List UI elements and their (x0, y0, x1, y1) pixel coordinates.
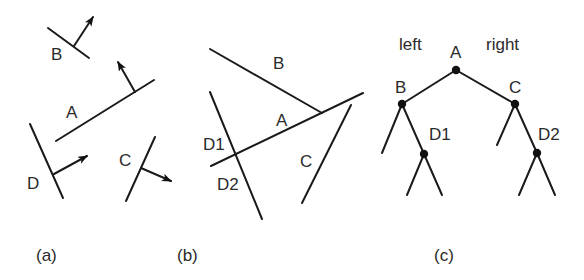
label-c-d2: D2 (538, 125, 560, 144)
edge-d1-leaf-left (407, 154, 424, 195)
label-a-a: A (66, 103, 78, 122)
panel-b: B A D1 D2 C (b) (177, 49, 363, 265)
tree-node-d1 (420, 150, 428, 158)
edge-b-leaf (382, 104, 402, 153)
label-b-d1: D1 (203, 135, 225, 154)
normal-arrow-d-icon (54, 156, 87, 174)
label-c-b: B (395, 78, 406, 97)
label-c-c: C (509, 78, 521, 97)
edge-c-d2 (515, 104, 537, 153)
edge-d2-leaf-right (537, 153, 555, 195)
tree-node-a (452, 66, 460, 74)
figure-svg: B A D C (a) B A D1 D2 C (b) (0, 0, 584, 280)
tree-node-c (511, 100, 519, 108)
label-c-d1: D1 (429, 125, 451, 144)
bsp-figure: B A D C (a) B A D1 D2 C (b) (0, 0, 584, 280)
segment-b (210, 49, 322, 113)
label-b-b: B (273, 54, 284, 73)
tree-node-b (398, 100, 406, 108)
caption-a: (a) (36, 246, 57, 265)
normal-arrow-c-icon (141, 168, 171, 181)
label-a-c: C (119, 151, 131, 170)
panel-a: B A D C (a) (27, 17, 171, 265)
normal-arrow-b-icon (74, 17, 93, 46)
tree-node-d2 (533, 149, 541, 157)
label-right: right (486, 35, 519, 54)
label-c-a: A (450, 43, 462, 62)
edge-d1-leaf-right (424, 154, 442, 195)
label-b-d2: D2 (217, 175, 239, 194)
caption-b: (b) (177, 246, 198, 265)
label-b-a: A (276, 111, 288, 130)
edge-d2-leaf-left (519, 153, 537, 195)
caption-c: (c) (434, 246, 454, 265)
label-b-c: C (300, 152, 312, 171)
label-a-d: D (27, 174, 39, 193)
edge-a-c (456, 70, 515, 104)
label-left: left (399, 35, 422, 54)
edge-b-d1 (402, 104, 424, 154)
label-a-b: B (51, 45, 62, 64)
edge-a-b (402, 70, 456, 104)
normal-arrow-a-icon (118, 62, 135, 92)
segment-d (210, 92, 262, 219)
panel-c: left right A B C D1 D2 (c) (382, 35, 560, 265)
edge-c-leaf (497, 104, 515, 145)
